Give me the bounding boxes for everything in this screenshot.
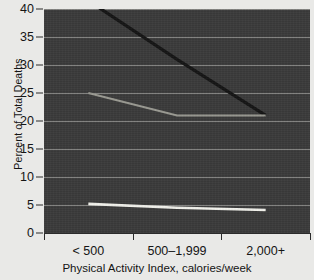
plot-area xyxy=(44,9,310,233)
x-axis-title: Physical Activity Index, calories/week xyxy=(0,262,314,274)
x-tick-label-2: 2,000+ xyxy=(246,244,285,258)
y-axis-tick-labels: 0510152025303540 xyxy=(0,0,44,280)
y-tick-label-10: 10 xyxy=(20,170,34,184)
x-tick-mark-0 xyxy=(44,233,45,240)
y-tick-label-15: 15 xyxy=(20,142,34,156)
data-line-series-white xyxy=(88,204,265,210)
y-tick-label-25: 25 xyxy=(20,86,34,100)
y-tick-mark-5 xyxy=(36,205,43,206)
y-tick-mark-25 xyxy=(36,93,43,94)
y-tick-label-40: 40 xyxy=(20,2,34,16)
x-tick-label-1: 500–1,999 xyxy=(147,244,206,258)
y-tick-label-30: 30 xyxy=(20,58,34,72)
data-series-layer xyxy=(44,9,310,233)
data-line-series-gray xyxy=(88,93,265,115)
y-tick-mark-15 xyxy=(36,149,43,150)
x-axis-line xyxy=(44,233,310,234)
y-tick-label-35: 35 xyxy=(20,30,34,44)
y-tick-mark-20 xyxy=(36,121,43,122)
y-tick-label-0: 0 xyxy=(27,226,34,240)
y-tick-mark-40 xyxy=(36,9,43,10)
x-tick-label-0: < 500 xyxy=(73,244,105,258)
y-tick-mark-35 xyxy=(36,37,43,38)
y-tick-label-20: 20 xyxy=(20,114,34,128)
x-tick-mark-3 xyxy=(310,233,311,240)
chart-container: Percent of Total Deaths 0510152025303540… xyxy=(0,0,314,280)
y-tick-mark-10 xyxy=(36,177,43,178)
y-tick-label-5: 5 xyxy=(27,198,34,212)
x-tick-mark-2 xyxy=(221,233,222,240)
y-tick-mark-30 xyxy=(36,65,43,66)
x-tick-mark-1 xyxy=(133,233,134,240)
y-tick-mark-0 xyxy=(36,233,43,234)
